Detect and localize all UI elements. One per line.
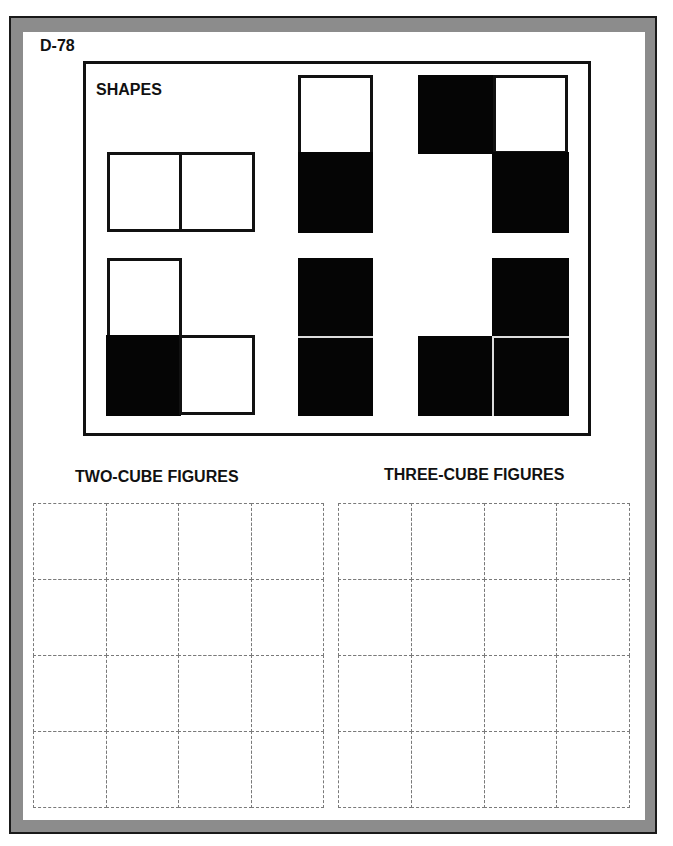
answer-cell — [106, 503, 180, 580]
cube-face-black — [298, 258, 373, 337]
answer-cell — [411, 579, 485, 656]
answer-cell — [484, 655, 558, 732]
answer-cell — [338, 503, 412, 580]
answer-cell — [338, 655, 412, 732]
cube-face-white — [179, 152, 255, 232]
worksheet-code: D-78 — [40, 37, 75, 55]
answer-cell — [178, 579, 252, 656]
cube-face-black — [492, 152, 569, 233]
answer-cell — [411, 503, 485, 580]
answer-cell — [556, 655, 630, 732]
answer-cell — [556, 503, 630, 580]
answer-cell — [33, 731, 107, 808]
answer-cell — [106, 655, 180, 732]
three-cube-figures-title: THREE-CUBE FIGURES — [384, 466, 564, 484]
cube-face-white — [493, 75, 568, 154]
answer-cell — [178, 503, 252, 580]
shapes-title: SHAPES — [96, 81, 162, 99]
answer-cell — [251, 503, 325, 580]
answer-cell — [251, 731, 325, 808]
answer-cell — [484, 503, 558, 580]
answer-cell — [556, 731, 630, 808]
cube-separator — [494, 336, 569, 338]
answer-cell — [33, 579, 107, 656]
cube-face-black — [298, 152, 373, 233]
answer-cell — [411, 731, 485, 808]
answer-cell — [411, 655, 485, 732]
answer-cell — [33, 503, 107, 580]
answer-cell — [33, 655, 107, 732]
cube-separator — [298, 336, 373, 338]
answer-cell — [178, 731, 252, 808]
cube-face-black — [492, 258, 569, 337]
cube-face-white — [298, 75, 373, 155]
cube-face-black — [418, 75, 495, 154]
cube-face-white — [179, 335, 255, 415]
cube-face-black — [298, 338, 373, 416]
answer-cell — [338, 579, 412, 656]
answer-cell — [251, 655, 325, 732]
two-cube-figures-title: TWO-CUBE FIGURES — [75, 468, 239, 486]
cube-face-black — [106, 335, 181, 416]
answer-cell — [106, 731, 180, 808]
answer-cell — [484, 579, 558, 656]
cube-face-white — [107, 258, 182, 338]
answer-cell — [484, 731, 558, 808]
cube-face-black — [494, 338, 569, 416]
cube-face-black — [418, 336, 493, 416]
cube-face-white — [107, 152, 182, 232]
cube-separator — [492, 336, 494, 416]
answer-cell — [556, 579, 630, 656]
answer-cell — [251, 579, 325, 656]
answer-cell — [338, 731, 412, 808]
answer-cell — [106, 579, 180, 656]
answer-cell — [178, 655, 252, 732]
